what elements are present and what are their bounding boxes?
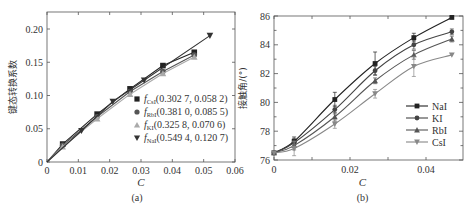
y-tick-label-b: 86 xyxy=(260,11,270,22)
series-curve-nai xyxy=(274,17,452,152)
panel-a: 00.010.020.030.040.050.0600.050.100.150.… xyxy=(7,12,244,204)
x-tick-label-b: 0.02 xyxy=(341,164,359,175)
data-point-nai xyxy=(332,97,337,102)
data-point-nai xyxy=(373,61,378,66)
legend-label-csi: fCsI(0.302 7, 0.058 2) xyxy=(144,93,227,105)
y-tick-label-a: 0.15 xyxy=(26,57,44,68)
legend-label-rbi: fRbI(0.381 0, 0.085 5) xyxy=(144,106,228,118)
series-b xyxy=(271,15,455,156)
panel-b: 00.020.04767880828486 NaIKIRbICsI C 接触角/… xyxy=(237,11,463,205)
legend-b: NaIKIRbICsI xyxy=(406,101,447,148)
x-axis-title-a: C xyxy=(137,176,145,188)
y-axis-title-a: 键态转换系数 xyxy=(7,60,18,114)
data-point-ki xyxy=(332,107,337,112)
y-tick-label-a: 0.10 xyxy=(26,90,44,101)
panel-label-a: (a) xyxy=(131,192,142,204)
x-tick-label-a: 0 xyxy=(45,165,50,176)
x-axis-title-b: C xyxy=(359,176,367,188)
x-tick-label-b: 0.04 xyxy=(417,164,435,175)
data-point-nai xyxy=(207,33,214,39)
panel-label-b: (b) xyxy=(357,192,369,204)
y-tick-label-b: 82 xyxy=(260,68,270,79)
y-tick-label-b: 84 xyxy=(260,39,270,50)
figure: 00.010.020.030.040.050.0600.050.100.150.… xyxy=(0,0,475,215)
x-tick-label-a: 0.03 xyxy=(132,165,150,176)
legend-marker-nai xyxy=(415,104,420,109)
legend-label-ki: fKI(0.325 8, 0.070 6) xyxy=(144,119,225,131)
data-point-ki xyxy=(411,42,416,47)
x-tick-label-a: 0.05 xyxy=(195,165,213,176)
x-tick-label-a: 0.06 xyxy=(226,165,244,176)
y-tick-label-b: 78 xyxy=(260,126,270,137)
x-tick-label-a: 0.01 xyxy=(70,165,88,176)
legend-label-rbi: RbI xyxy=(432,125,447,136)
data-point-csi xyxy=(411,64,417,69)
legend-label-ki: KI xyxy=(432,113,443,124)
y-tick-label-a: 0.05 xyxy=(26,123,44,134)
x-tick-label-a: 0.04 xyxy=(164,165,182,176)
y-tick-label-b: 80 xyxy=(260,97,270,108)
data-point-rbi xyxy=(449,36,455,41)
data-point-ki xyxy=(449,29,454,34)
y-tick-label-a: 0.20 xyxy=(26,24,44,35)
y-tick-label-b: 76 xyxy=(260,155,270,166)
data-point-nai xyxy=(449,15,454,20)
data-point-csi xyxy=(291,146,297,151)
legend-a: fCsI(0.302 7, 0.058 2)fRbI(0.381 0, 0.08… xyxy=(134,93,228,144)
y-tick-label-a: 0 xyxy=(38,157,43,168)
x-tick-label-a: 0.02 xyxy=(101,165,119,176)
data-point-nai xyxy=(411,35,416,40)
legend-marker-nai xyxy=(134,135,140,141)
legend-marker-ki xyxy=(134,122,140,128)
legend-marker-rbi xyxy=(134,109,139,114)
legend-marker-ki xyxy=(415,116,420,121)
legend-label-nai: NaI xyxy=(432,101,447,112)
y-axis-title-b: 接触角/(°) xyxy=(237,67,248,109)
legend-label-csi: CsI xyxy=(432,137,446,148)
data-point-csi xyxy=(332,122,338,127)
data-point-ki xyxy=(373,68,378,73)
legend-label-nai: fNaI(0.549 4, 0.120 7) xyxy=(144,132,228,144)
x-tick-label-b: 0 xyxy=(272,164,277,175)
legend-marker-csi xyxy=(134,96,139,101)
